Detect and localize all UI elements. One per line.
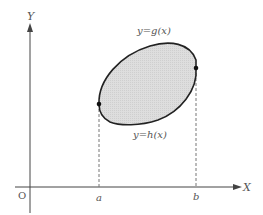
x-axis-label: X — [243, 182, 251, 193]
upper-curve-label: y=g(x) — [137, 26, 171, 36]
y-axis-arrow-icon — [27, 23, 33, 32]
enclosed-region — [99, 43, 196, 125]
endpoint-b — [194, 66, 199, 71]
x-axis-arrow-icon — [233, 184, 242, 190]
y-axis — [27, 23, 33, 213]
x-axis — [15, 184, 242, 190]
origin-label: O — [18, 191, 26, 201]
y-axis-label: Y — [27, 11, 34, 22]
diagram-canvas — [0, 0, 263, 215]
bound-label-b: b — [193, 192, 199, 202]
lower-curve-label: y=h(x) — [133, 130, 167, 140]
endpoint-a — [97, 102, 102, 107]
bound-label-a: a — [96, 193, 102, 203]
